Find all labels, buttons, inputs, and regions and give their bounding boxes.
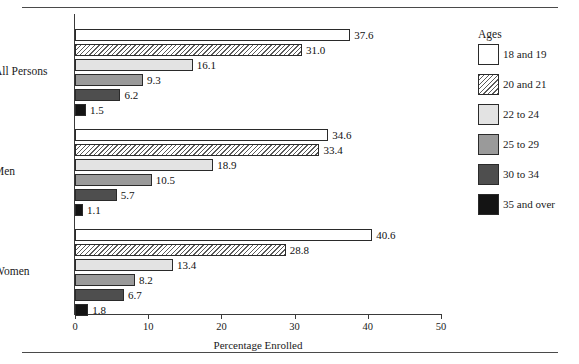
light-gray-square-swatch [478, 104, 499, 125]
bar[interactable] [75, 174, 152, 186]
bar-row: 9.3 [75, 73, 441, 88]
bar[interactable] [75, 89, 120, 101]
legend-item[interactable]: 18 and 19 [478, 44, 578, 74]
group-label: Men [0, 165, 66, 177]
legend-title: Ages [478, 28, 502, 40]
group-label: Women [0, 265, 66, 277]
bar-value-label: 40.6 [376, 228, 395, 242]
bar-value-label: 1.5 [90, 103, 104, 117]
bar[interactable] [75, 59, 193, 71]
bar[interactable] [75, 229, 372, 241]
bar-row: 28.8 [75, 243, 441, 258]
x-axis-tick-label: 50 [436, 321, 447, 332]
legend: Ages 18 and 1920 and 2122 to 2425 to 293… [478, 44, 578, 224]
legend-item[interactable]: 30 to 34 [478, 164, 578, 194]
bar-value-label: 8.2 [139, 273, 153, 287]
bar-group: Women40.628.813.48.26.71.8 [75, 228, 441, 318]
bar-row: 1.8 [75, 303, 441, 318]
x-axis-tick-label: 10 [143, 321, 154, 332]
bar-row: 8.2 [75, 273, 441, 288]
white-open-square-swatch [478, 44, 499, 65]
bar-value-label: 6.2 [124, 88, 138, 102]
bar-row: 33.4 [75, 143, 441, 158]
bar-value-label: 1.8 [92, 303, 106, 317]
bar-value-label: 31.0 [306, 43, 325, 57]
bar[interactable] [75, 129, 328, 141]
plot-area: 01020304050 All Persons37.631.016.19.36.… [75, 14, 441, 314]
legend-item[interactable]: 22 to 24 [478, 104, 578, 134]
bar-row: 18.9 [75, 158, 441, 173]
bar-row: 1.5 [75, 103, 441, 118]
bar-row: 16.1 [75, 58, 441, 73]
bar[interactable] [75, 104, 86, 116]
legend-item[interactable]: 20 and 21 [478, 74, 578, 104]
bar-value-label: 33.4 [323, 143, 342, 157]
bar-row: 37.6 [75, 28, 441, 43]
bar-value-label: 5.7 [121, 188, 135, 202]
bar-row: 34.6 [75, 128, 441, 143]
bar[interactable] [75, 304, 88, 316]
cropped-caption [22, 0, 442, 6]
bar-group: Men34.633.418.910.55.71.1 [75, 128, 441, 218]
top-rule [22, 7, 558, 8]
x-axis-tick [441, 314, 442, 319]
x-axis-tick-label: 30 [289, 321, 300, 332]
bar-row: 10.5 [75, 173, 441, 188]
chart-figure: 01020304050 All Persons37.631.016.19.36.… [0, 0, 579, 364]
bar-row: 5.7 [75, 188, 441, 203]
bar-row: 6.7 [75, 288, 441, 303]
bar[interactable] [75, 189, 117, 201]
legend-item-label: 18 and 19 [503, 48, 546, 60]
bar-value-label: 10.5 [156, 173, 175, 187]
dark-gray-square-swatch [478, 164, 499, 185]
bar-group: All Persons37.631.016.19.36.21.5 [75, 28, 441, 118]
legend-item[interactable]: 35 and over [478, 194, 578, 224]
medium-gray-square-swatch [478, 134, 499, 155]
black-square-swatch [478, 194, 499, 215]
bar-value-label: 34.6 [332, 128, 351, 142]
bottom-rule [22, 352, 558, 353]
bar-row: 40.6 [75, 228, 441, 243]
bar[interactable] [75, 289, 124, 301]
legend-item-label: 20 and 21 [503, 78, 546, 90]
legend-item-label: 25 to 29 [503, 138, 539, 150]
legend-item[interactable]: 25 to 29 [478, 134, 578, 164]
bar-row: 13.4 [75, 258, 441, 273]
bar-row: 6.2 [75, 88, 441, 103]
bar-value-label: 16.1 [197, 58, 216, 72]
x-axis-tick-label: 0 [72, 321, 77, 332]
bar[interactable] [75, 244, 286, 256]
bar-row: 1.1 [75, 203, 441, 218]
x-axis-tick-label: 20 [216, 321, 227, 332]
bar-value-label: 18.9 [217, 158, 236, 172]
x-axis-tick-label: 40 [363, 321, 374, 332]
diagonal-hatch-square-swatch [478, 74, 499, 95]
bar[interactable] [75, 259, 173, 271]
bar[interactable] [75, 274, 135, 286]
bar[interactable] [75, 44, 302, 56]
bar-value-label: 13.4 [177, 258, 196, 272]
bar-row: 31.0 [75, 43, 441, 58]
bar[interactable] [75, 74, 143, 86]
bar[interactable] [75, 29, 350, 41]
legend-item-label: 22 to 24 [503, 108, 539, 120]
x-axis-label: Percentage Enrolled [75, 339, 441, 351]
legend-item-label: 30 to 34 [503, 168, 539, 180]
legend-items: 18 and 1920 and 2122 to 2425 to 2930 to … [478, 44, 578, 224]
bar[interactable] [75, 204, 83, 216]
bar[interactable] [75, 159, 213, 171]
bar[interactable] [75, 144, 319, 156]
group-label: All Persons [0, 65, 66, 77]
bar-value-label: 28.8 [290, 243, 309, 257]
bar-value-label: 37.6 [354, 28, 373, 42]
bar-value-label: 1.1 [87, 203, 101, 217]
legend-item-label: 35 and over [503, 198, 555, 210]
bar-value-label: 6.7 [128, 288, 142, 302]
bar-value-label: 9.3 [147, 73, 161, 87]
